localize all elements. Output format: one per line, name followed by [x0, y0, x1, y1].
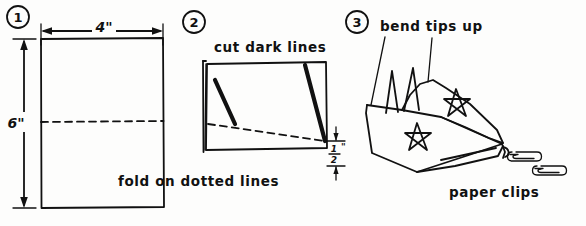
step-3-leader-line-right — [428, 38, 432, 82]
step-2-caption-top: cut dark lines — [214, 39, 326, 55]
paper-airplane — [366, 68, 509, 172]
step-2-edge-dimension: 1 2 " — [327, 127, 346, 180]
step-2-fold-line — [208, 124, 325, 141]
step-1-fold-line — [41, 121, 164, 122]
arrow-up-icon — [333, 166, 338, 174]
step-3-caption-bottom: paper clips — [449, 184, 540, 200]
arrow-left-icon — [41, 27, 52, 35]
step-1-caption: fold on dotted lines — [118, 173, 279, 189]
step-3-number: 3 — [352, 15, 361, 30]
instruction-diagram: 1 4" — [0, 0, 586, 226]
circled-number-two: 2 — [183, 11, 205, 33]
step-2-number: 2 — [189, 15, 198, 30]
step-1-group: 1 4" — [6, 6, 279, 208]
circled-number-one: 1 — [7, 6, 29, 28]
step-1-number: 1 — [13, 10, 22, 25]
step-2-dimension-unit: " — [341, 142, 346, 152]
step-2-cut-line-right — [305, 65, 325, 141]
step-2-dimension-denominator: 2 — [331, 155, 337, 165]
step-3-leader-line-left — [371, 37, 385, 105]
step-2-cut-line-left — [215, 80, 235, 124]
step-3-caption-top: bend tips up — [380, 18, 483, 34]
step-1-width-dimension: 4" — [41, 18, 163, 45]
step-2-dimension-numerator: 1 — [331, 144, 337, 154]
step-1-height-label: 6" — [7, 115, 24, 131]
paper-clip-icon — [508, 152, 542, 161]
circled-number-three: 3 — [346, 11, 368, 33]
paper-clip-icon — [533, 166, 567, 175]
star-icon — [405, 123, 431, 150]
arrow-right-icon — [152, 27, 163, 35]
step-3-group: 3 bend tips up — [346, 11, 567, 200]
diagram-canvas: 1 4" — [0, 0, 586, 226]
step-2-group: 2 cut dark lines — [183, 11, 346, 180]
arrow-down-icon — [333, 133, 338, 141]
arrow-up-icon — [20, 39, 28, 50]
step-1-height-dimension: 6" — [6, 39, 36, 208]
step-1-width-label: 4" — [94, 19, 112, 35]
arrow-down-icon — [20, 197, 28, 208]
star-icon — [444, 89, 470, 116]
